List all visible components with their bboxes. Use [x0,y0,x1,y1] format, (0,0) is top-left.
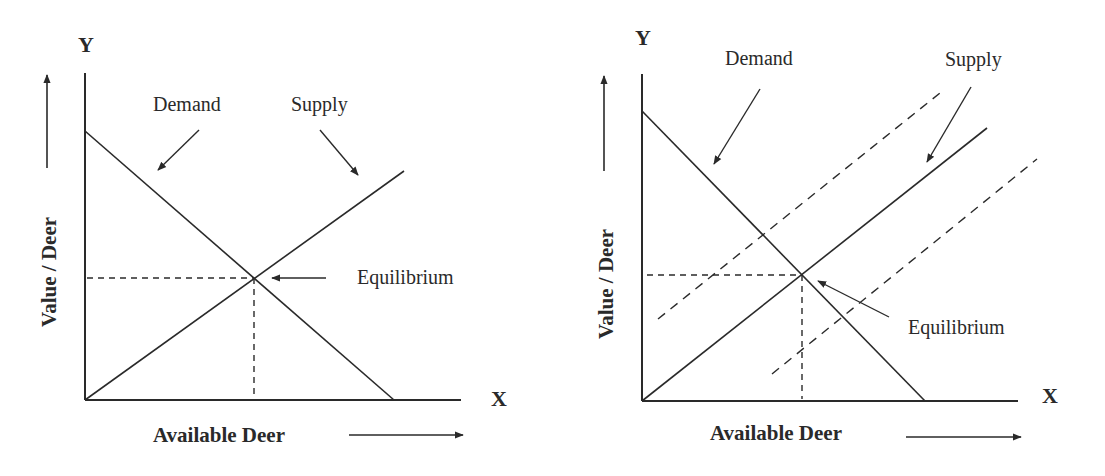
right-demand-label: Demand [725,47,793,69]
supply-demand-diagrams: Y X Demand Supply Equilibrium Available … [0,0,1105,476]
left-y-letter: Y [78,32,94,57]
left-chart [47,73,463,435]
right-demand-pointer-arrow [714,89,760,164]
right-x-axis-title: Available Deer [710,421,842,445]
right-x-letter: X [1042,383,1058,408]
right-y-letter: Y [635,25,651,50]
right-chart-labels: Y X Demand Supply Equilibrium Available … [594,25,1058,445]
right-chart [604,74,1037,437]
left-x-axis-title: Available Deer [153,423,285,447]
left-demand-curve [85,131,394,400]
right-supply-label: Supply [945,48,1002,71]
left-supply-pointer-arrow [320,130,358,175]
left-x-letter: X [491,386,507,411]
right-equilibrium-pointer-arrow [818,281,889,317]
right-supply-shifted-up [658,93,940,319]
right-demand-curve [642,111,925,401]
right-supply-curve [642,128,987,401]
left-demand-pointer-arrow [158,130,199,170]
left-demand-label: Demand [153,93,221,115]
left-y-axis-title: Value / Deer [37,217,61,327]
left-equilibrium-label: Equilibrium [357,266,454,289]
right-y-axis-title: Value / Deer [594,229,618,339]
right-equilibrium-label: Equilibrium [908,316,1005,339]
left-supply-label: Supply [291,93,348,116]
